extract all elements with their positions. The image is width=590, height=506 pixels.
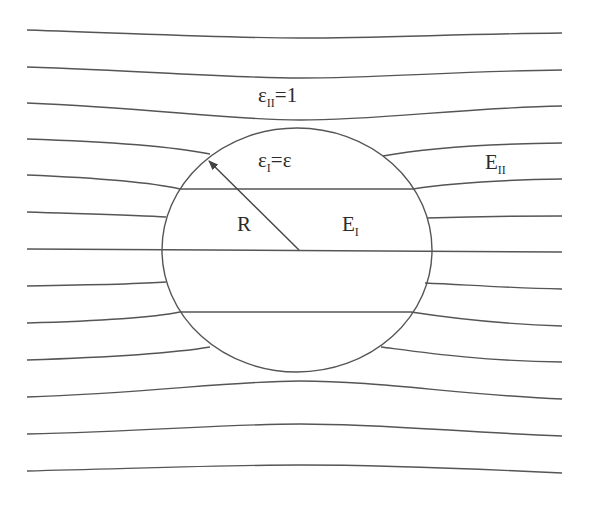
field-line — [27, 282, 166, 286]
inner-field-label: EI — [342, 214, 359, 238]
field-line — [27, 67, 562, 78]
field-line — [381, 347, 562, 362]
field-line — [27, 347, 210, 360]
field-line — [27, 424, 562, 436]
field-line — [27, 381, 562, 399]
field-line — [27, 465, 562, 473]
outer-medium-label: εII=1 — [258, 85, 297, 109]
radius-arrow — [209, 161, 299, 250]
field-line — [27, 139, 210, 154]
radius-label: R — [237, 214, 251, 235]
field-line — [383, 143, 562, 156]
field-line — [425, 283, 562, 289]
inner-medium-label: εI=ε — [258, 150, 292, 174]
field-line — [427, 216, 562, 218]
field-line — [27, 30, 562, 38]
field-line — [27, 312, 562, 326]
field-line — [27, 249, 562, 252]
field-line — [27, 175, 562, 189]
field-line — [27, 212, 166, 217]
outer-field-label: EII — [485, 152, 506, 176]
field-lines-diagram — [0, 0, 590, 506]
